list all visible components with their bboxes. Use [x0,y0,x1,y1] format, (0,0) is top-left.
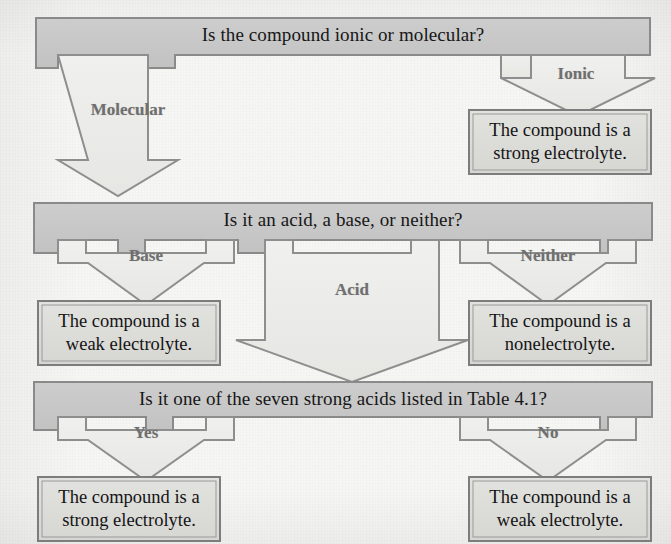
edge-label-molecular: Molecular [68,100,188,120]
result-neither-line2: nonelectrolyte. [473,333,647,356]
decision-question-2: Is it an acid, a base, or neither? [34,209,652,231]
decision-question-3: Is it one of the seven strong acids list… [34,388,652,410]
result-base-line1: The compound is a [42,310,216,333]
result-weak-acid-line2: weak electrolyte. [473,509,647,532]
result-strong-acid-line1: The compound is a [42,486,216,509]
result-ionic-line1: The compound is a [473,119,647,142]
edge-label-neither: Neither [488,246,608,266]
arrow-acid [236,240,468,382]
result-ionic-line2: strong electrolyte. [473,142,647,165]
edge-label-ionic: Ionic [516,64,636,84]
result-neither-line1: The compound is a [473,310,647,333]
arrow-molecular [58,55,178,196]
result-strong-acid-line2: strong electrolyte. [42,509,216,532]
edge-label-base: Base [86,246,206,266]
edge-label-yes: Yes [86,423,206,443]
result-base-line2: weak electrolyte. [42,333,216,356]
edge-label-no: No [488,423,608,443]
decision-question-1: Is the compound ionic or molecular? [36,24,650,46]
edge-label-acid: Acid [292,280,412,300]
result-weak-acid-line1: The compound is a [473,486,647,509]
flowchart-page: Is the compound ionic or molecular? Mole… [0,0,671,544]
